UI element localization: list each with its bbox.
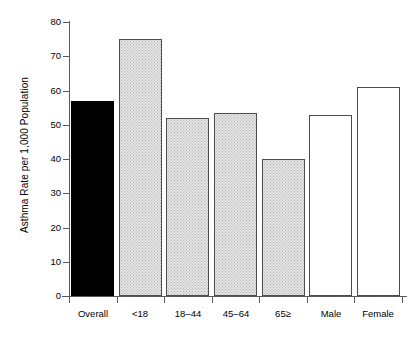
bar-18 [119,39,162,296]
x-tick-1 [117,297,118,303]
x-tick-7 [402,297,403,303]
x-axis-line [62,296,407,297]
bar-4564 [214,113,257,296]
x-tick-2 [164,297,165,303]
x-tick-label-6: Female [338,308,415,319]
x-tick-6 [354,297,355,303]
x-tick-5 [307,297,308,303]
bar-series [0,0,415,296]
bar-65 [262,159,305,296]
bar-Overall [71,101,114,296]
bar-1844 [166,118,209,296]
x-tick-0 [69,297,70,303]
x-tick-4 [259,297,260,303]
bar-Male [309,115,352,296]
asthma-rate-bar-chart: Asthma Rate per 1,000 Population 0102030… [0,0,415,341]
x-tick-3 [212,297,213,303]
bar-Female [357,87,400,296]
